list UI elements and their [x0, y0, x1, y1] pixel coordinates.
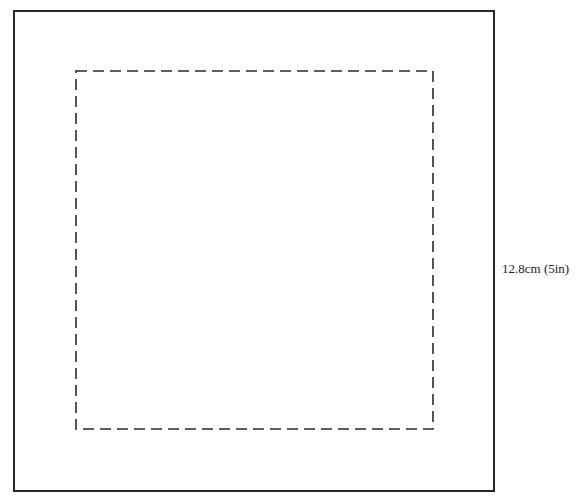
inner-dashed-square — [0, 0, 586, 501]
dimension-label: 12.8cm (5in) — [502, 261, 569, 277]
